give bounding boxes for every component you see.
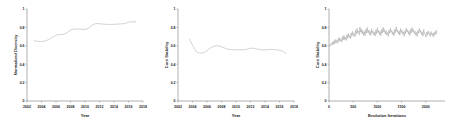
series-line-1	[34, 22, 136, 42]
x-tick-label: 2006	[203, 105, 211, 109]
x-tick-label: 2014	[261, 105, 269, 109]
y-tick-label: 1	[325, 7, 327, 11]
x-tick-label: 0	[328, 105, 330, 109]
x-tick-label: 2010	[81, 105, 89, 109]
y-tick-label: 0.6	[20, 44, 25, 48]
plot-area-2: 1 0.8 0.6 0.4 0.2 0	[164, 7, 298, 118]
x-tick-label: 2010	[232, 105, 240, 109]
series-line-2	[190, 39, 286, 53]
x-tick-labels-3: 0 500 1000 1500 2000	[328, 105, 430, 109]
y-tick-label: 0.2	[322, 81, 327, 85]
y-axis-title-1: Normalized Diversity	[13, 34, 18, 75]
y-tick-labels-1: 1 0.8 0.6 0.4 0.2 0	[20, 7, 25, 103]
chart-svg-1: 1 0.8 0.6 0.4 0.2 0	[0, 0, 151, 123]
y-axis-title-2: Core Stability	[164, 41, 169, 68]
x-tick-label: 2004	[38, 105, 46, 109]
x-tick-label: 1500	[398, 105, 406, 109]
chart-panel-core-stability-year: 1 0.8 0.6 0.4 0.2 0	[151, 0, 302, 123]
x-tick-label: 2018	[139, 105, 147, 109]
figure-panel-row: 1 0.8 0.6 0.4 0.2 0	[0, 0, 453, 123]
x-tick-label: 2016	[125, 105, 133, 109]
chart-panel-core-stability-iterations: 1 0.8 0.6 0.4 0.2 0 0 500 1	[302, 0, 453, 123]
y-tick-label: 0	[325, 99, 327, 103]
x-axis-title-3: Evolution Iterations	[368, 113, 407, 118]
x-axis-title-2: Year	[232, 113, 241, 118]
y-tick-label: 0.2	[20, 81, 25, 85]
chart-svg-3: 1 0.8 0.6 0.4 0.2 0 0 500 1	[302, 0, 453, 123]
x-tick-label: 2002	[174, 105, 182, 109]
y-tick-label: 0	[23, 99, 25, 103]
x-tick-label: 2018	[290, 105, 298, 109]
y-tick-label: 0.4	[20, 63, 25, 67]
x-tick-label: 1000	[373, 105, 381, 109]
x-tick-label: 2006	[52, 105, 60, 109]
x-tick-label: 2016	[276, 105, 284, 109]
y-tick-labels-3: 1 0.8 0.6 0.4 0.2 0	[322, 7, 327, 103]
x-tick-label: 500	[350, 105, 356, 109]
x-tick-label: 2012	[96, 105, 104, 109]
x-tick-label: 2004	[189, 105, 197, 109]
y-tick-label: 0.6	[322, 44, 327, 48]
x-axis-title-1: Year	[81, 113, 90, 118]
y-axis-title-3: Core Stability	[315, 41, 320, 68]
y-tick-label: 0.8	[171, 26, 176, 30]
x-tick-label: 2012	[247, 105, 255, 109]
y-tick-label: 0.2	[171, 81, 176, 85]
y-tick-label: 0.4	[171, 63, 176, 67]
y-tick-label: 0.4	[322, 63, 327, 67]
x-tick-label: 2002	[23, 105, 31, 109]
chart-svg-2: 1 0.8 0.6 0.4 0.2 0	[151, 0, 302, 123]
series-line-3	[329, 27, 436, 46]
y-tick-label: 1	[23, 7, 25, 11]
x-tick-label: 2014	[110, 105, 118, 109]
y-tick-label: 0.6	[171, 44, 176, 48]
y-tick-label: 0.8	[322, 26, 327, 30]
x-tick-labels-2: 2002 2004 2006 2008 2010 2012 2014 2016 …	[174, 105, 298, 109]
plot-area-1: 1 0.8 0.6 0.4 0.2 0	[13, 7, 147, 118]
x-tick-label: 2008	[218, 105, 226, 109]
y-tick-label: 0	[174, 99, 176, 103]
chart-panel-normalized-diversity: 1 0.8 0.6 0.4 0.2 0	[0, 0, 151, 123]
y-tick-labels-2: 1 0.8 0.6 0.4 0.2 0	[171, 7, 176, 103]
y-tick-label: 1	[174, 7, 176, 11]
x-tick-label: 2000	[422, 105, 430, 109]
plot-area-3: 1 0.8 0.6 0.4 0.2 0 0 500 1	[315, 7, 445, 118]
x-tick-label: 2008	[67, 105, 75, 109]
x-tick-labels-1: 2002 2004 2006 2008 2010 2012 2014 2016 …	[23, 105, 147, 109]
y-tick-label: 0.8	[20, 26, 25, 30]
